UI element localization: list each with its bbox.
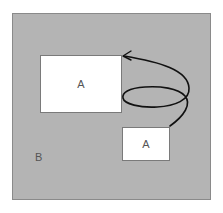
looped-arrow-icon	[0, 0, 223, 213]
